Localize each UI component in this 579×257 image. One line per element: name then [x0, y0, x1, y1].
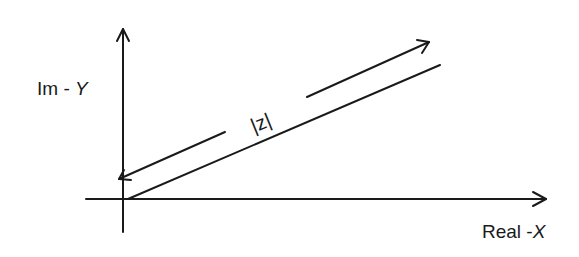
vector-magnitude-label: |z| [247, 109, 274, 137]
x-axis-label: Real -X [482, 221, 547, 242]
vector-z [128, 65, 440, 199]
complex-plane-diagram: Im - Y Real -X |z| [0, 0, 579, 257]
y-axis-label: Im - Y [37, 78, 89, 99]
y-axis [117, 29, 129, 232]
x-axis [86, 192, 546, 206]
magnitude-dimension-arrow [119, 40, 429, 180]
